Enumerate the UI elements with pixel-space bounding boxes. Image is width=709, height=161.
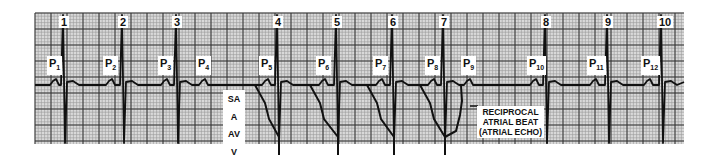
- p-wave-label: P5: [259, 56, 274, 75]
- level-a: A: [231, 112, 238, 122]
- p-wave-label: P9: [461, 56, 476, 75]
- reciprocal-beat-annotation: RECIPROCAL ATRIAL BEAT (ATRIAL ECHO): [477, 106, 544, 138]
- beat-number-label: 7: [439, 16, 449, 28]
- p-wave-label: P12: [641, 56, 660, 75]
- p-wave-label: P4: [196, 56, 211, 75]
- p-wave-label: P7: [373, 56, 388, 75]
- annotation-line-2: ATRIAL BEAT: [479, 117, 542, 127]
- level-v: V: [231, 147, 237, 157]
- beat-number-label: 4: [273, 16, 283, 28]
- beat-number-label: 1: [59, 16, 69, 28]
- beat-number-label: 3: [172, 16, 182, 28]
- p-wave-label: P10: [527, 56, 546, 75]
- beat-number-label: 5: [332, 16, 342, 28]
- beat-number-label: 10: [657, 16, 673, 28]
- p-wave-label: P6: [316, 56, 331, 75]
- level-av: AV: [228, 129, 240, 139]
- annotation-line-3: (ATRIAL ECHO): [479, 127, 542, 137]
- beat-number-label: 9: [603, 16, 613, 28]
- beat-number-label: 8: [541, 16, 551, 28]
- level-sa: SA: [228, 94, 241, 104]
- ecg-grid-background: [35, 13, 684, 144]
- p-wave-label: P2: [103, 56, 118, 75]
- p-wave-label: P1: [47, 56, 62, 75]
- p-wave-label: P8: [425, 56, 440, 75]
- p-wave-label: P11: [587, 56, 606, 75]
- beat-number-label: 2: [118, 16, 128, 28]
- ladder-level-key: SA A AV V: [223, 90, 245, 161]
- p-wave-label: P3: [158, 56, 173, 75]
- annotation-line-1: RECIPROCAL: [479, 107, 542, 117]
- beat-number-label: 6: [388, 16, 398, 28]
